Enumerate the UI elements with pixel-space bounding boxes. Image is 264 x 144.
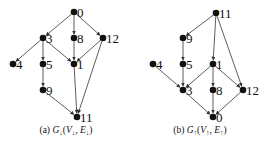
- node-label-4: 4: [16, 57, 23, 72]
- node-label-9: 9: [46, 83, 53, 98]
- graph-down: 03812451911: [10, 5, 119, 125]
- node-label-12: 12: [106, 31, 119, 46]
- caption-graph-down: (a) G↓(V↓, E↓): [39, 125, 92, 137]
- node-label-8: 8: [216, 83, 223, 98]
- node-label-5: 5: [186, 57, 193, 72]
- node-label-0: 0: [216, 110, 223, 125]
- node-label-4: 4: [156, 57, 163, 72]
- node-label-3: 3: [186, 83, 193, 98]
- diagram-canvas: 03812451911 11945138120 (a) G↓(V↓, E↓) (…: [0, 0, 264, 144]
- caption-graph-up: (b) G↑(V↑, E↑): [173, 125, 227, 137]
- node-label-1: 1: [216, 57, 223, 72]
- node-label-11: 11: [80, 110, 93, 125]
- edge-11-12: [217, 16, 242, 86]
- node-label-8: 8: [77, 31, 84, 46]
- node-label-0: 0: [77, 5, 84, 20]
- edge-1-11: [74, 67, 77, 113]
- node-label-12: 12: [246, 83, 259, 98]
- node-label-3: 3: [46, 31, 53, 46]
- edge-12-11: [78, 41, 102, 113]
- edge-11-1: [213, 16, 216, 60]
- node-label-5: 5: [46, 57, 53, 72]
- graph-up: 11945138120: [150, 6, 259, 125]
- node-label-1: 1: [77, 57, 84, 72]
- node-label-11: 11: [219, 6, 232, 21]
- node-label-9: 9: [186, 31, 193, 46]
